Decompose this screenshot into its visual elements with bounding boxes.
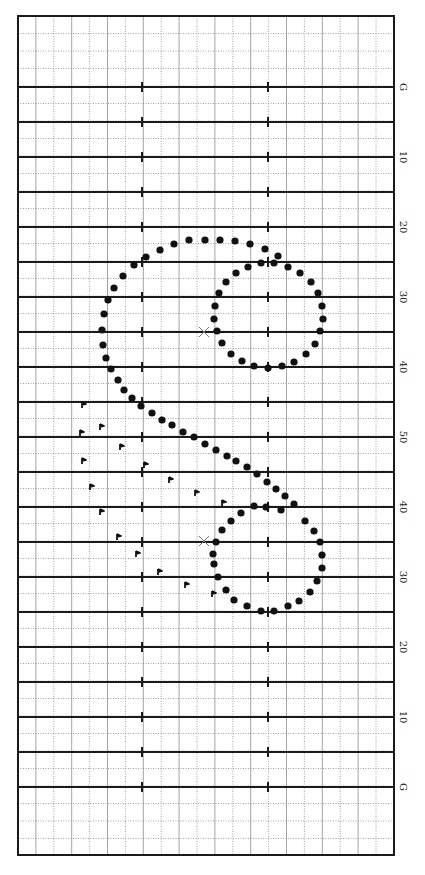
yard-lines xyxy=(18,87,394,787)
marcher-dot xyxy=(261,245,268,252)
marcher-dot xyxy=(302,350,309,357)
marcher-dot xyxy=(238,357,245,364)
marcher-dot xyxy=(100,310,107,317)
flag-marker xyxy=(90,484,94,490)
marcher-dot xyxy=(102,354,109,361)
marcher-dot xyxy=(270,607,277,614)
marcher-dot xyxy=(212,538,219,545)
flag-icon xyxy=(136,551,140,557)
marcher-dot xyxy=(156,246,163,253)
marcher-dot xyxy=(185,236,192,243)
marcher-dot xyxy=(231,237,238,244)
marcher-dot xyxy=(316,538,323,545)
flag-icon xyxy=(120,444,124,450)
marcher-dot xyxy=(211,302,218,309)
marcher-dot xyxy=(313,577,320,584)
yard-line-label: 50 xyxy=(398,427,408,447)
marcher-dot xyxy=(244,263,251,270)
marcher-dot xyxy=(104,296,111,303)
marcher-dot xyxy=(232,457,239,464)
yard-line-label: 20 xyxy=(398,637,408,657)
flag-marker xyxy=(212,591,216,597)
marcher-dot xyxy=(318,551,325,558)
marcher-dot xyxy=(272,485,279,492)
flag-marker xyxy=(169,477,173,483)
marcher-dot xyxy=(142,253,149,260)
flag-marker xyxy=(82,402,86,408)
marcher-dot xyxy=(201,236,208,243)
marcher-dot xyxy=(227,517,234,524)
marcher-dot xyxy=(119,272,126,279)
marcher-dot xyxy=(277,506,284,513)
marcher-dot xyxy=(215,289,222,296)
marcher-dot xyxy=(213,327,220,334)
flag-icon xyxy=(144,462,148,468)
flag-icon xyxy=(212,591,216,597)
marcher-dot xyxy=(262,503,269,510)
marcher-dot xyxy=(107,365,114,372)
marcher-dot xyxy=(274,252,281,259)
marcher-dot xyxy=(223,452,230,459)
flag-marker xyxy=(195,490,199,496)
marcher-dot xyxy=(270,259,277,266)
marcher-dot xyxy=(148,409,155,416)
marcher-dot xyxy=(319,315,326,322)
marcher-dot xyxy=(301,517,308,524)
flag-icon xyxy=(195,490,199,496)
marcher-dot xyxy=(278,362,285,369)
marcher-dot xyxy=(120,386,127,393)
marcher-dot xyxy=(222,278,229,285)
flag-icon xyxy=(100,424,104,430)
flag-marker xyxy=(80,430,84,436)
flag-icon xyxy=(222,500,226,506)
marcher-dot xyxy=(168,421,175,428)
marcher-dot xyxy=(318,302,325,309)
flag-marker xyxy=(222,500,226,506)
yard-line-label: G xyxy=(398,77,408,97)
marcher-dot xyxy=(296,269,303,276)
marcher-dot xyxy=(246,240,253,247)
flag-icon xyxy=(82,458,86,464)
yard-line-label: 40 xyxy=(398,357,408,377)
marcher-dot xyxy=(311,340,318,347)
flag-icon xyxy=(169,477,173,483)
marcher-dot xyxy=(227,350,234,357)
marcher-dot xyxy=(257,259,264,266)
marcher-dot xyxy=(237,509,244,516)
flag-icon xyxy=(90,484,94,490)
flag-marker xyxy=(185,582,189,588)
marcher-dot xyxy=(137,402,144,409)
marcher-dot xyxy=(310,527,317,534)
marcher-dot xyxy=(306,588,313,595)
marcher-dot xyxy=(218,339,225,346)
marcher-dot xyxy=(209,550,216,557)
flag-marker xyxy=(144,462,148,468)
marcher-dot xyxy=(307,278,314,285)
flag-icon xyxy=(117,534,121,540)
marcher-dot xyxy=(212,446,219,453)
marcher-dot xyxy=(179,428,186,435)
marcher-dot xyxy=(318,564,325,571)
flag-marker xyxy=(100,424,104,430)
marcher-dot xyxy=(250,502,257,509)
marcher-dots xyxy=(98,236,326,614)
marcher-dot xyxy=(284,602,291,609)
flag-markers xyxy=(80,402,226,597)
field-border xyxy=(18,16,394,855)
marcher-dot xyxy=(128,394,135,401)
marcher-dot xyxy=(99,341,106,348)
marcher-dot xyxy=(232,269,239,276)
flag-icon xyxy=(185,582,189,588)
yard-line-label: 10 xyxy=(398,707,408,727)
marcher-dot xyxy=(290,500,297,507)
flag-marker xyxy=(82,458,86,464)
marcher-dot xyxy=(284,263,291,270)
marcher-dot xyxy=(230,596,237,603)
marcher-dot xyxy=(243,463,250,470)
flag-marker xyxy=(100,509,104,515)
yard-line-label: 30 xyxy=(398,287,408,307)
flag-marker xyxy=(136,551,140,557)
marcher-dot xyxy=(263,478,270,485)
marcher-dot xyxy=(190,433,197,440)
flag-icon xyxy=(82,402,86,408)
